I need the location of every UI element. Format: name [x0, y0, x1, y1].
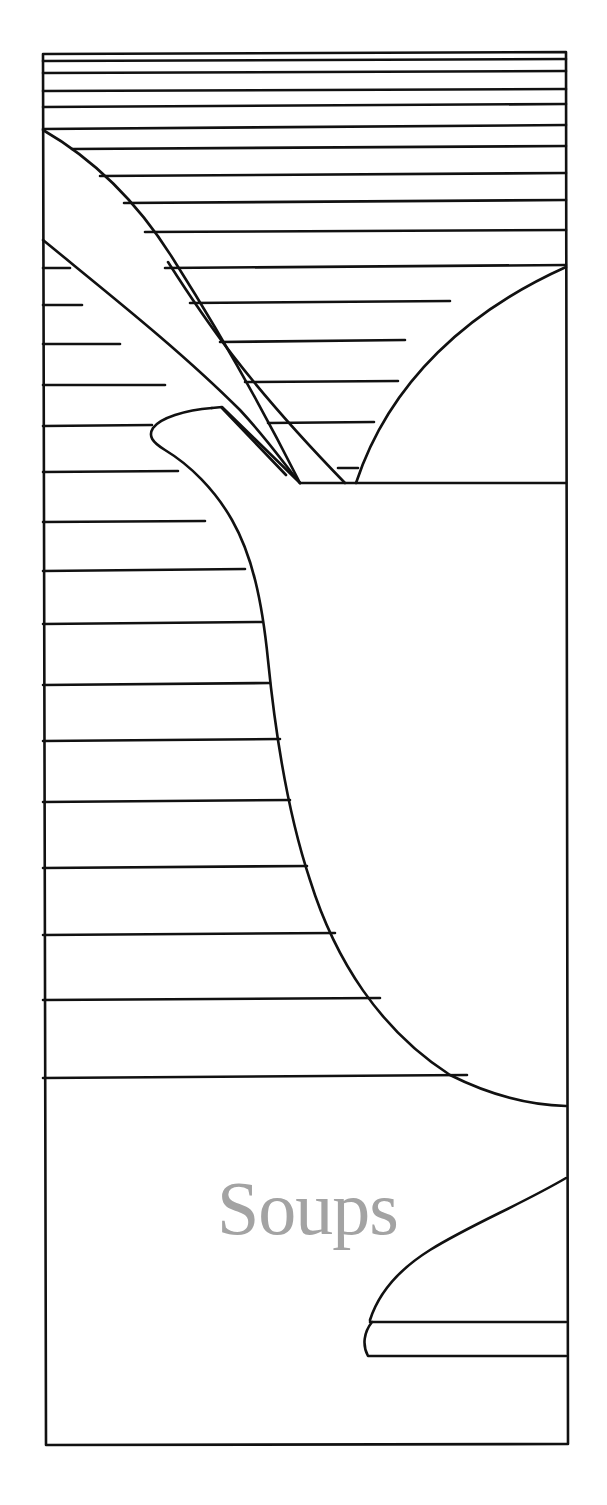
background-stripes-left	[43, 301, 467, 1078]
tureen-spout-inner	[222, 408, 286, 475]
soup-tureen-illustration	[0, 0, 607, 1505]
section-title-text: Soups	[217, 1163, 398, 1253]
tureen-spout	[151, 408, 566, 1106]
background-stripes-top	[43, 59, 566, 268]
section-title: Soups	[0, 1163, 607, 1253]
tureen-lid-dome	[356, 267, 566, 483]
pedestal-base-edge	[365, 1322, 566, 1356]
ladle-handle	[43, 130, 300, 483]
